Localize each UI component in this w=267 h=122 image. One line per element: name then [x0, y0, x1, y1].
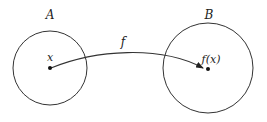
point-x-label: x [47, 51, 54, 64]
function-mapping-diagram: A B f x f(x) [0, 0, 267, 122]
point-fx-dot [206, 67, 210, 71]
function-label-f: f [120, 35, 128, 49]
point-fx-label: f(x) [201, 53, 221, 66]
set-b-label: B [204, 8, 214, 22]
set-a-label: A [45, 8, 55, 22]
mapping-arrow-f [51, 53, 203, 68]
diagram-canvas: A B f x f(x) [0, 0, 267, 122]
point-x-dot [48, 66, 52, 70]
